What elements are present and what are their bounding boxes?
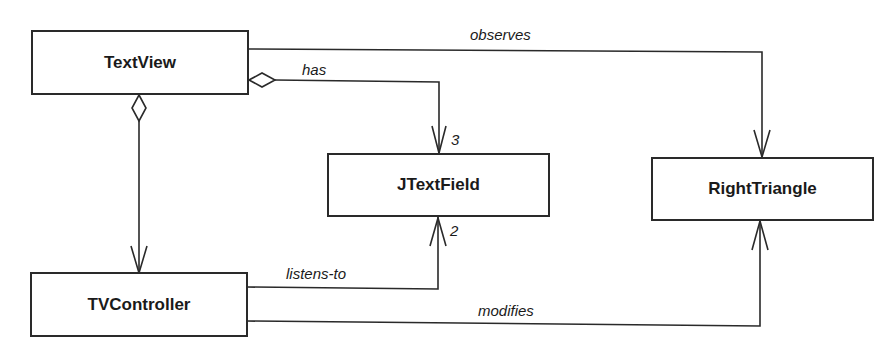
class-name: TVController [88,295,191,315]
modifies-label: modifies [478,302,534,319]
observes-label: observes [470,26,531,43]
class-righttriangle: RightTriangle [651,157,874,221]
controller-aggregation-diamond-icon [132,95,146,121]
class-name: JTextField [397,175,480,195]
class-name: TextView [104,53,176,73]
listens-multiplicity: 2 [450,222,458,239]
listens-to-label: listens-to [286,265,346,282]
class-name: RightTriangle [708,179,817,199]
has-multiplicity: 3 [451,131,459,148]
class-textview: TextView [31,30,249,95]
has-label: has [302,61,326,78]
class-jtextfield: JTextField [327,153,550,217]
has-aggregation-diamond-icon [249,73,275,87]
has-connector [275,80,439,153]
class-tvcontroller: TVController [30,272,248,337]
